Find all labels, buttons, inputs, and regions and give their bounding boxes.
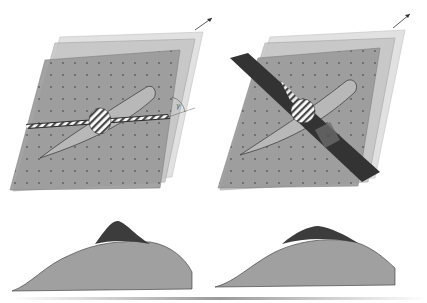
right-profile: [215, 226, 395, 287]
baseline-shadow: [12, 297, 427, 300]
hub-hatched-circle: [291, 99, 315, 123]
left-panel: γ: [10, 18, 212, 191]
diagram-canvas: γ φ: [0, 0, 427, 303]
right-panel: φ: [218, 14, 410, 190]
angle-label-right: φ: [326, 131, 331, 139]
profile-peak-narrow: [95, 221, 150, 244]
left-profile: [12, 221, 192, 291]
profile-base: [12, 241, 192, 291]
profile-base: [215, 240, 395, 287]
hub-hatched-circle: [89, 108, 111, 134]
